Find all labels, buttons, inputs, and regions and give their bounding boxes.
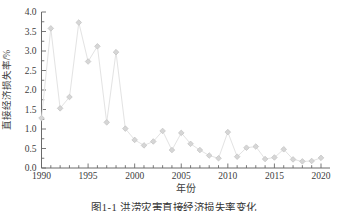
x-tick-label: 2010 — [218, 171, 237, 181]
data-point — [309, 158, 315, 164]
data-point — [318, 155, 324, 161]
y-tick-label: 0.0 — [25, 163, 37, 173]
data-point — [197, 147, 203, 153]
data-point — [104, 120, 110, 126]
x-tick-label: 2005 — [172, 171, 191, 181]
data-point — [169, 147, 175, 153]
plot-area: 19901995200020052010201520200.00.51.01.5… — [25, 7, 331, 181]
data-point — [216, 155, 222, 161]
data-point — [39, 115, 45, 121]
data-point — [206, 153, 212, 159]
data-point — [141, 143, 147, 149]
x-tick-label: 2015 — [265, 171, 284, 181]
y-tick-label: 0.5 — [25, 144, 37, 154]
data-point — [76, 20, 82, 26]
figure: 年份 直接经济损失率/% 199019952000200520102015202… — [0, 0, 348, 211]
data-point — [113, 49, 119, 55]
y-axis-label: 直接经济损失率/% — [1, 50, 12, 131]
data-point — [225, 129, 231, 135]
line-chart: 年份 直接经济损失率/% 199019952000200520102015202… — [0, 0, 348, 200]
y-tick-label: 2.0 — [25, 85, 37, 95]
x-tick-label: 1995 — [79, 171, 98, 181]
y-tick-label: 3.0 — [25, 46, 37, 56]
data-point — [300, 159, 306, 165]
x-tick-label: 2020 — [312, 171, 331, 181]
x-axis-label: 年份 — [176, 182, 196, 194]
y-tick-label: 3.5 — [25, 27, 37, 37]
data-point — [48, 26, 54, 32]
x-tick-label: 2000 — [125, 171, 144, 181]
figure-caption: 图1-1 洪涝灾害直接经济损失率变化 — [0, 202, 348, 211]
data-point — [85, 59, 91, 65]
series-line — [42, 23, 322, 162]
data-point — [95, 44, 101, 50]
y-tick-label: 4.0 — [25, 7, 37, 17]
y-tick-label: 1.0 — [25, 124, 37, 134]
y-tick-label: 1.5 — [25, 105, 37, 115]
axes-spines — [42, 12, 331, 168]
y-tick-label: 2.5 — [25, 66, 37, 76]
